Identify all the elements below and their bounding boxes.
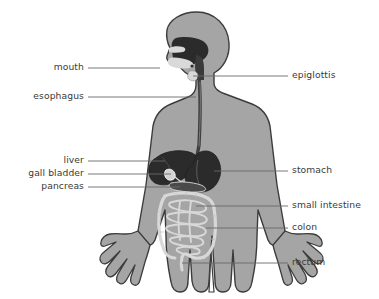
label-pancreas: pancreas: [41, 181, 84, 191]
nasal-passage: [169, 46, 185, 52]
label-liver: liver: [64, 155, 84, 165]
label-esophagus: esophagus: [33, 91, 84, 101]
label-stomach: stomach: [292, 165, 332, 175]
label-gall-bladder: gall bladder: [28, 168, 84, 178]
label-epiglottis: epiglottis: [292, 70, 336, 80]
label-mouth: mouth: [54, 62, 84, 72]
head-cavity-group: [168, 37, 209, 81]
rectum-group: [181, 257, 182, 270]
label-small-intestine: small intestine: [292, 200, 361, 210]
left-hand: [100, 231, 150, 285]
rectum: [181, 257, 182, 270]
label-rectum: rectum: [292, 257, 325, 267]
anatomy-illustration: [0, 0, 379, 299]
uvula: [190, 64, 193, 67]
digestive-system-diagram: mouthesophaguslivergall bladderpancreas …: [0, 0, 379, 299]
label-colon: colon: [292, 222, 317, 232]
gall-bladder: [165, 169, 176, 180]
left-hand-group: [100, 231, 150, 285]
